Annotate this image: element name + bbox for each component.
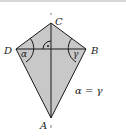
- vertex-d-label: D: [3, 45, 12, 56]
- vertex-b-label: B: [90, 45, 98, 56]
- equation-label: α = γ: [75, 85, 102, 96]
- kite-diagram: α γ C D B A α = γ: [0, 0, 126, 136]
- vertex-c-label: C: [55, 16, 63, 27]
- alpha-label: α: [21, 49, 27, 59]
- gamma-label: γ: [73, 49, 79, 59]
- vertex-a-label: A: [39, 120, 47, 131]
- right-angle-dot: [47, 45, 49, 47]
